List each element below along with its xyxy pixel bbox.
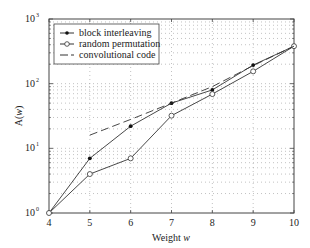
data-point — [47, 211, 52, 216]
y-tick-label: 10 — [25, 142, 35, 153]
data-point — [210, 92, 215, 97]
open-circle-marker-icon — [65, 42, 70, 47]
x-tick-label: 4 — [47, 217, 52, 228]
y-tick-exponent: 0 — [36, 206, 39, 212]
x-axis-label: Weight w — [152, 232, 190, 243]
x-tick-label: 6 — [128, 217, 133, 228]
chart: 45678910 100101102103 block interleaving… — [0, 0, 310, 248]
data-point — [128, 156, 133, 161]
series-lines — [47, 44, 297, 216]
y-axis-label: A(w) — [13, 106, 25, 127]
y-tick-exponent: 1 — [36, 141, 39, 147]
data-point — [292, 44, 297, 49]
data-point — [87, 172, 92, 177]
data-point — [251, 63, 255, 67]
legend-label: random permutation — [79, 38, 160, 49]
legend-label: convolutional code — [79, 49, 156, 60]
legend: block interleaving random permutation co… — [54, 24, 160, 64]
filled-dot-marker-icon — [65, 31, 69, 35]
x-tick-label: 10 — [289, 217, 299, 228]
y-tick-label: 10 — [25, 207, 35, 218]
y-tick-label: 10 — [25, 13, 35, 24]
x-tick-label: 9 — [251, 217, 256, 228]
data-point — [251, 69, 256, 74]
data-point — [169, 113, 174, 118]
x-tick-label: 5 — [87, 217, 92, 228]
data-point — [129, 124, 133, 128]
y-tick-exponent: 3 — [36, 12, 39, 18]
x-tick-label: 8 — [210, 217, 215, 228]
y-tick-label: 10 — [25, 78, 35, 89]
legend-label: block interleaving — [79, 27, 151, 38]
data-point — [88, 156, 92, 160]
x-tick-label: 7 — [169, 217, 174, 228]
y-tick-exponent: 2 — [36, 77, 39, 83]
